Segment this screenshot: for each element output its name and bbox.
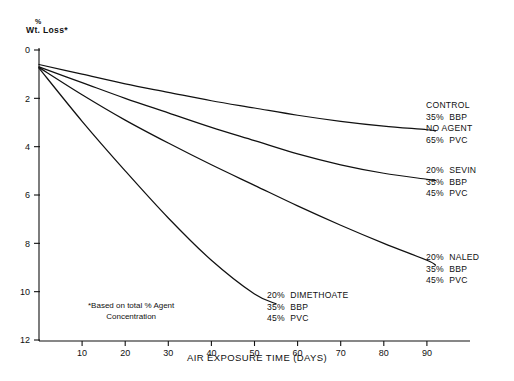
data-curve xyxy=(39,65,436,131)
annotation-sevin: 20% SEVIN 35% BBP 45% PVC xyxy=(426,165,476,200)
data-curves-group xyxy=(39,65,436,304)
axes-group xyxy=(39,48,470,341)
footnote-line2: Concentration xyxy=(88,311,174,322)
annotation-dimethoate-line2: 35% BBP xyxy=(267,302,348,314)
y-tick-label: 12 xyxy=(20,335,30,345)
annotation-naled: 20% NALED 35% BBP 45% PVC xyxy=(426,252,479,287)
annotation-naled-line1: 20% NALED xyxy=(426,252,479,264)
annotation-control-line3: NO AGENT xyxy=(426,123,472,135)
annotation-control-line4: 65% PVC xyxy=(426,135,472,147)
annotation-dimethoate-line1: 20% DIMETHOATE xyxy=(267,290,348,302)
annotation-sevin-line2: 35% BBP xyxy=(426,177,476,189)
y-tick-label: 0 xyxy=(25,45,30,55)
y-tick-label: 10 xyxy=(20,287,30,297)
annotation-control-line2: 35% BBP xyxy=(426,112,472,124)
y-tick-group: 024681012 xyxy=(20,45,40,345)
y-tick-label: 8 xyxy=(25,239,30,249)
y-axis-title-main: Wt. Loss* xyxy=(26,25,68,35)
annotation-control: CONTROL 35% BBP NO AGENT 65% PVC xyxy=(426,100,472,146)
annotation-naled-line2: 35% BBP xyxy=(426,264,479,276)
annotation-sevin-line3: 45% PVC xyxy=(426,188,476,200)
annotation-dimethoate: 20% DIMETHOATE 35% BBP 45% PVC xyxy=(267,290,348,325)
annotation-naled-line3: 45% PVC xyxy=(426,275,479,287)
y-axis-title: % Wt. Loss* xyxy=(26,17,68,35)
chart-figure: % Wt. Loss* 024681012 102030405060708090… xyxy=(0,0,514,381)
data-curve xyxy=(39,67,436,265)
footnote: *Based on total % Agent Concentration xyxy=(88,300,174,322)
y-tick-label: 2 xyxy=(25,94,30,104)
y-tick-label: 6 xyxy=(25,190,30,200)
y-tick-label: 4 xyxy=(25,142,30,152)
x-axis-title: AIR EXPOSURE TIME (DAYS) xyxy=(0,352,514,363)
annotation-sevin-line1: 20% SEVIN xyxy=(426,165,476,177)
footnote-line1: *Based on total % Agent xyxy=(88,300,174,311)
annotation-control-line1: CONTROL xyxy=(426,100,472,112)
data-curve xyxy=(39,67,436,181)
data-curve xyxy=(39,68,276,304)
annotation-dimethoate-line3: 45% PVC xyxy=(267,313,348,325)
